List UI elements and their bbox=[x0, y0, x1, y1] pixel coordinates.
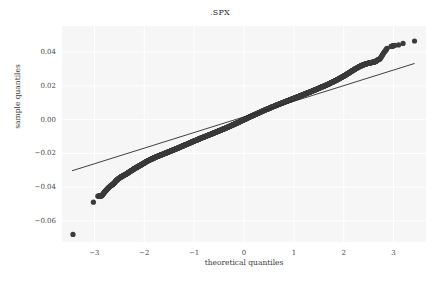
grid-lines bbox=[62, 26, 426, 242]
chart-title: .SPX bbox=[0, 8, 440, 17]
data-point bbox=[396, 42, 401, 47]
plot-area bbox=[62, 26, 426, 242]
plot-canvas bbox=[62, 26, 426, 242]
x-tick-label: 0 bbox=[242, 249, 246, 257]
y-tick-label: −0.06 bbox=[8, 217, 56, 225]
data-point bbox=[400, 41, 405, 46]
y-tick-label: −0.02 bbox=[8, 149, 56, 157]
reference-line bbox=[72, 63, 415, 170]
qq-plot-figure: .SPX 0.040.020.00−0.02−0.04−0.06 −3−2−10… bbox=[0, 0, 440, 283]
x-tick-label: −1 bbox=[189, 249, 199, 257]
x-tick-label: 2 bbox=[341, 249, 345, 257]
data-point bbox=[70, 232, 75, 237]
data-point bbox=[412, 38, 417, 43]
x-tick-label: 1 bbox=[292, 249, 296, 257]
x-axis-label: theoretical quantiles bbox=[62, 258, 426, 267]
x-tick-label: −3 bbox=[89, 249, 99, 257]
y-axis-label: sample quantiles bbox=[13, 52, 22, 142]
data-point bbox=[91, 200, 96, 205]
y-tick-label: −0.04 bbox=[8, 183, 56, 191]
x-tick-label: −2 bbox=[139, 249, 149, 257]
x-tick-label: 3 bbox=[391, 249, 395, 257]
